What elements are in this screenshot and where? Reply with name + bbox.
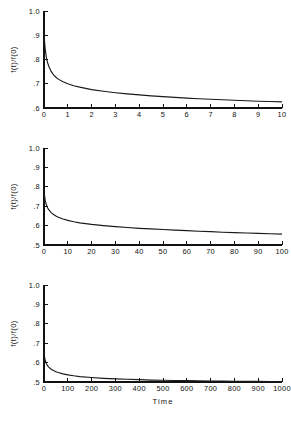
- chart-panel-0: 012345678910.6.7.8.91.0f(t)/f(0): [0, 0, 291, 133]
- x-ticklabel-0-3: 3: [113, 110, 117, 119]
- curve-1-0: [44, 189, 282, 234]
- x-ticklabel-0-5: 5: [161, 110, 165, 119]
- y-ticklabel-2-4: .9: [33, 300, 40, 309]
- chart-panel-2: 01002003004005006007008009001000.5.6.7.8…: [0, 274, 291, 407]
- y-ticklabel-1-3: .8: [33, 182, 40, 191]
- chart-panel-1: 0102030405060708090100.5.6.7.8.91.0f(t)/…: [0, 137, 291, 270]
- figure-three-panel-decay: 012345678910.6.7.8.91.0f(t)/f(0) 0102030…: [0, 0, 291, 423]
- x-ticklabel-1-5: 50: [159, 247, 168, 256]
- plot-area-1: 0102030405060708090100.5.6.7.8.91.0f(t)/…: [0, 137, 291, 270]
- plot-area-0: 012345678910.6.7.8.91.0f(t)/f(0): [0, 0, 291, 133]
- y-axis-title-1: f(t)/f(0): [9, 183, 18, 209]
- y-ticklabel-0-3: .9: [33, 31, 40, 40]
- y-ticklabel-2-1: .6: [33, 358, 40, 367]
- plot-area-2: 01002003004005006007008009001000.5.6.7.8…: [0, 274, 291, 407]
- y-ticklabel-1-5: 1.0: [29, 144, 40, 153]
- x-ticklabel-0-1: 1: [66, 110, 70, 119]
- y-ticklabel-0-0: .6: [33, 104, 40, 113]
- y-axis-title-0: f(t)/f(0): [9, 46, 18, 72]
- x-ticklabel-2-10: 1000: [273, 384, 291, 393]
- x-ticklabel-2-8: 800: [228, 384, 241, 393]
- axis-lines-0: [44, 11, 282, 108]
- y-ticklabel-2-0: .5: [33, 378, 40, 387]
- curve-2-0: [44, 352, 282, 382]
- x-ticklabel-1-1: 10: [63, 247, 72, 256]
- curve-0-0: [44, 34, 282, 102]
- x-ticklabel-2-0: 0: [42, 384, 46, 393]
- y-ticklabel-0-4: 1.0: [29, 7, 40, 16]
- x-ticklabel-0-6: 6: [185, 110, 189, 119]
- x-ticklabel-1-8: 80: [230, 247, 239, 256]
- x-ticklabel-0-2: 2: [89, 110, 93, 119]
- x-ticklabel-0-8: 8: [232, 110, 236, 119]
- x-ticklabel-2-4: 400: [133, 384, 146, 393]
- y-ticklabel-1-4: .9: [33, 163, 40, 172]
- y-ticklabel-2-5: 1.0: [29, 281, 40, 290]
- x-ticklabel-0-0: 0: [42, 110, 46, 119]
- y-ticklabel-0-1: .7: [33, 79, 40, 88]
- x-ticklabel-1-7: 70: [206, 247, 215, 256]
- x-ticklabel-2-1: 100: [61, 384, 74, 393]
- x-ticklabel-0-4: 4: [137, 110, 141, 119]
- x-ticklabel-1-3: 30: [111, 247, 120, 256]
- x-ticklabel-1-9: 90: [254, 247, 263, 256]
- axis-lines-1: [44, 148, 282, 245]
- x-ticklabel-2-7: 700: [204, 384, 217, 393]
- x-ticklabel-1-0: 0: [42, 247, 46, 256]
- y-axis-title-2: f(t)/f(0): [9, 320, 18, 346]
- y-ticklabel-2-2: .7: [33, 339, 40, 348]
- x-ticklabel-1-4: 40: [135, 247, 144, 256]
- x-ticklabel-2-6: 600: [180, 384, 193, 393]
- x-axis-title-2: Time: [153, 397, 174, 406]
- x-ticklabel-0-7: 7: [208, 110, 212, 119]
- axis-lines-2: [44, 285, 282, 382]
- y-ticklabel-1-2: .7: [33, 202, 40, 211]
- y-ticklabel-1-0: .5: [33, 241, 40, 250]
- x-ticklabel-0-10: 10: [278, 110, 287, 119]
- x-ticklabel-1-2: 20: [87, 247, 96, 256]
- x-ticklabel-2-5: 500: [156, 384, 169, 393]
- x-ticklabel-1-6: 60: [182, 247, 191, 256]
- y-ticklabel-1-1: .6: [33, 221, 40, 230]
- x-ticklabel-1-10: 100: [275, 247, 288, 256]
- x-ticklabel-0-9: 9: [256, 110, 260, 119]
- x-ticklabel-2-9: 900: [252, 384, 265, 393]
- y-ticklabel-0-2: .8: [33, 55, 40, 64]
- x-ticklabel-2-2: 200: [85, 384, 98, 393]
- y-ticklabel-2-3: .8: [33, 319, 40, 328]
- x-ticklabel-2-3: 300: [109, 384, 122, 393]
